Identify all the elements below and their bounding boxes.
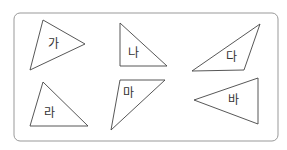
triangle-label: 나 [128, 46, 139, 60]
triangle-label: 라 [44, 106, 55, 120]
triangle-label: 바 [228, 93, 239, 107]
frame-box [14, 13, 278, 141]
triangle-da: 다 [192, 24, 260, 71]
triangle-ga: 가 [30, 20, 85, 70]
triangle-label: 가 [48, 37, 59, 51]
triangle-diagram: 가 나 다 라 마 바 [0, 0, 287, 150]
triangle-ba: 바 [194, 78, 258, 124]
triangle-label: 마 [123, 86, 134, 100]
triangle-ra: 라 [30, 82, 88, 126]
triangle-na: 나 [120, 23, 167, 66]
triangle-ma: 마 [111, 80, 165, 130]
triangle-label: 다 [226, 50, 237, 64]
